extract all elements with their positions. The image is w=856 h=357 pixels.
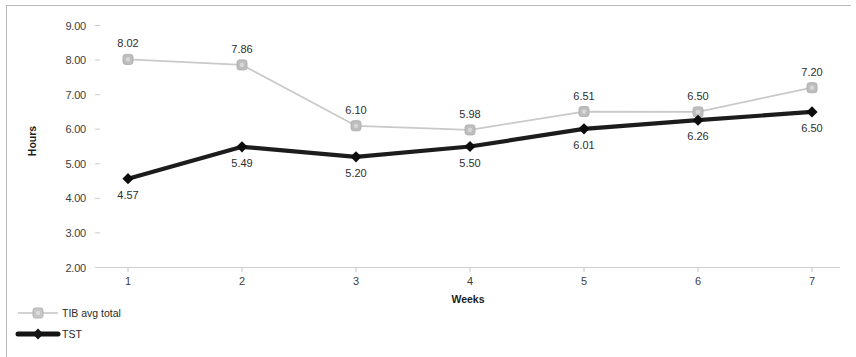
data-point-label: 6.51 <box>573 90 594 102</box>
x-axis-tick-labels: 1234567 <box>125 275 815 287</box>
square-marker-center <box>582 109 587 114</box>
y-axis-tick-label: 6.00 <box>65 123 86 135</box>
chart-legend: TIB avg totalTST <box>18 307 121 340</box>
y-axis-tick-label: 9.00 <box>65 20 86 32</box>
x-axis-tick-label: 7 <box>809 275 815 287</box>
legend-diamond-marker <box>33 329 44 340</box>
y-axis-tick-label: 2.00 <box>65 262 86 274</box>
x-axis-tick-label: 2 <box>239 275 245 287</box>
y-axis-title: Hours <box>26 126 38 156</box>
data-point-label: 6.50 <box>687 90 708 102</box>
legend-item-label: TST <box>62 328 82 340</box>
diamond-marker <box>122 173 133 184</box>
x-axis-tick-marks <box>128 268 812 273</box>
square-marker-center <box>810 85 815 90</box>
square-marker-center <box>126 57 131 62</box>
data-point-label: 6.26 <box>687 130 708 142</box>
diamond-marker <box>806 106 817 117</box>
square-marker-center <box>696 110 701 115</box>
data-point-label: 6.10 <box>345 104 366 116</box>
x-axis-tick-label: 6 <box>695 275 701 287</box>
x-axis-tick-label: 5 <box>581 275 587 287</box>
square-marker-center <box>354 123 359 128</box>
y-axis-tick-label: 3.00 <box>65 227 86 239</box>
data-point-label: 7.20 <box>801 66 822 78</box>
x-axis-tick-label: 3 <box>353 275 359 287</box>
legend-item-label: TIB avg total <box>62 307 121 319</box>
data-point-label: 8.02 <box>117 37 138 49</box>
data-point-label: 5.98 <box>459 108 480 120</box>
x-axis-tick-label: 1 <box>125 275 131 287</box>
y-axis-tick-marks <box>95 26 100 268</box>
data-point-label: 5.20 <box>345 167 366 179</box>
data-point-label: 7.86 <box>231 43 252 55</box>
y-axis-tick-label: 7.00 <box>65 89 86 101</box>
data-point-label: 6.50 <box>801 122 822 134</box>
diamond-marker <box>464 141 475 152</box>
data-point-label: 6.01 <box>573 139 594 151</box>
diamond-marker <box>350 151 361 162</box>
square-marker-center <box>468 128 473 133</box>
diamond-marker <box>578 123 589 134</box>
y-axis-tick-label: 8.00 <box>65 54 86 66</box>
y-axis-tick-label: 5.00 <box>65 158 86 170</box>
data-point-label: 4.57 <box>117 189 138 201</box>
data-point-label: 5.49 <box>231 157 252 169</box>
square-marker-center <box>240 63 245 68</box>
x-axis-title: Weeks <box>451 293 484 305</box>
x-axis-tick-label: 4 <box>467 275 473 287</box>
y-axis-tick-label: 4.00 <box>65 192 86 204</box>
diamond-marker <box>236 141 247 152</box>
legend-square-marker-center <box>36 311 41 316</box>
y-axis-tick-labels: 9.008.007.006.005.004.003.002.00 <box>65 20 86 274</box>
data-point-label: 5.50 <box>459 157 480 169</box>
